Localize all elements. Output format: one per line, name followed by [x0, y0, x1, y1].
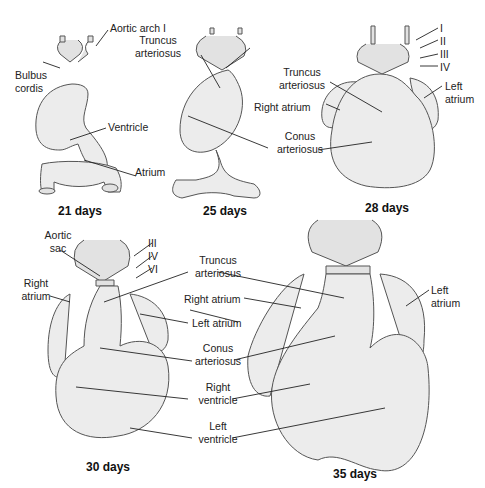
label-right-atrium-28: Right atrium [254, 101, 311, 113]
label-ventricle: Ventricle [108, 121, 148, 133]
label-aortic-arch-i: Aortic arch I [110, 22, 166, 34]
label-left-atrium-35: atrium [431, 297, 460, 309]
label-arch-iii: III [440, 48, 449, 60]
caption-35-days: 35 days [333, 467, 377, 481]
label-truncus: Truncus [118, 34, 198, 46]
label-truncus-28: Truncus [262, 66, 342, 78]
label-arteriosus-28: arteriosus [262, 79, 342, 91]
label-left-35: Left [431, 284, 449, 296]
label-right-atrium-35: Right atrium [184, 293, 241, 305]
label-right-ventricle-2: ventricle [180, 394, 256, 406]
label-arch-iv-30: IV [148, 250, 158, 262]
label-conus-28: Conus [260, 130, 340, 142]
label-right-30: Right [14, 277, 58, 289]
label-truncus-35: Truncus [180, 254, 256, 266]
label-left-atrium-28: atrium [445, 93, 474, 105]
caption-28-days: 28 days [365, 201, 409, 215]
heart-development-figure: Aortic arch I Bulbus cordis Ventricle At… [0, 0, 485, 488]
label-left-28: Left [445, 80, 463, 92]
label-arch-iii-30: III [148, 237, 157, 249]
label-arteriosus-35: arteriosus [180, 267, 256, 279]
label-arch-i: I [440, 22, 443, 34]
label-bulbus: Bulbus [15, 69, 47, 81]
label-conus-35: Conus [180, 342, 256, 354]
heart-28-days [318, 26, 442, 188]
label-arch-iv: IV [440, 61, 450, 73]
label-conus-arteriosus-35: arteriosus [180, 355, 256, 367]
label-right-atrium-30: atrium [14, 290, 58, 302]
label-conus-arteriosus-28: arteriosus [260, 143, 340, 155]
label-cordis: cordis [15, 82, 43, 94]
label-left-ventricle-2: ventricle [180, 433, 256, 445]
label-atrium: Atrium [135, 166, 165, 178]
label-arch-ii: II [440, 35, 446, 47]
label-left-ventricle: Left [180, 420, 256, 432]
caption-25-days: 25 days [203, 204, 247, 218]
label-left-atrium-30: Left atrium [192, 317, 242, 329]
caption-21-days: 21 days [58, 204, 102, 218]
label-arch-vi-30: VI [148, 263, 158, 275]
label-aortic: Aortic [38, 229, 78, 241]
caption-30-days: 30 days [86, 460, 130, 474]
label-arteriosus: arteriosus [118, 47, 198, 59]
label-right-ventricle: Right [180, 381, 256, 393]
label-sac: sac [38, 242, 78, 254]
